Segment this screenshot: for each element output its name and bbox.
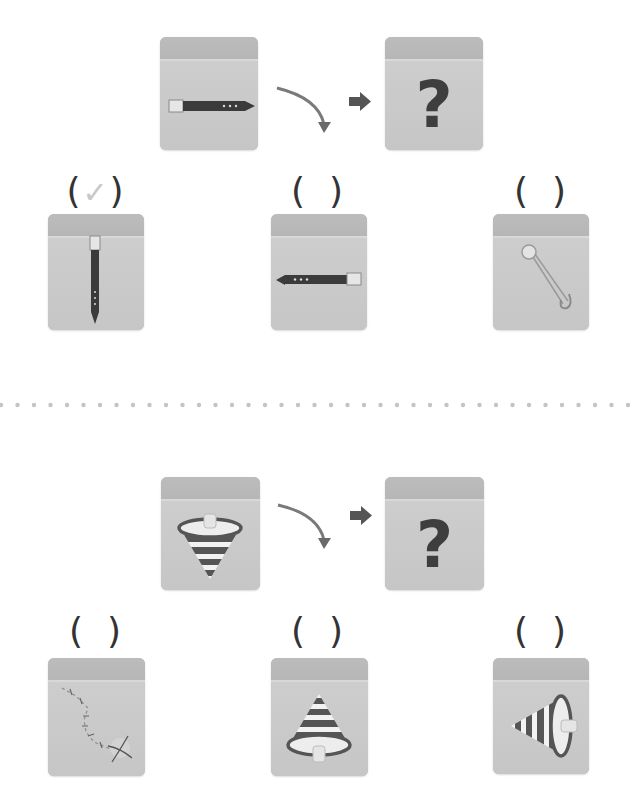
option-box-belt-vertical[interactable] xyxy=(48,214,144,330)
box-top-face xyxy=(385,477,484,501)
question-mark: ? xyxy=(385,499,484,590)
option-box-safety-pin[interactable] xyxy=(493,214,589,330)
belt-vertical-icon xyxy=(48,214,144,330)
belt-horizontal-icon xyxy=(160,37,258,150)
answer-bracket[interactable]: () xyxy=(46,610,146,651)
answer-bracket[interactable]: () xyxy=(491,610,591,651)
option-box-spinning-top-up[interactable] xyxy=(271,658,368,776)
box-top-face xyxy=(385,37,483,61)
answer-bracket[interactable]: () xyxy=(268,610,368,651)
option-box-belt-flipped[interactable] xyxy=(271,214,367,330)
treasure-map-icon xyxy=(48,658,145,776)
question-mark: ? xyxy=(385,59,483,150)
spinning-top-left-icon xyxy=(493,658,589,774)
target-box-question: ? xyxy=(385,37,483,150)
right-arrow-icon xyxy=(350,506,372,525)
belt-horizontal-flipped-icon xyxy=(271,214,367,330)
option-box-spinning-top-left[interactable] xyxy=(493,658,589,774)
curved-rotate-arrow-icon xyxy=(277,88,331,133)
spinning-top-down-icon xyxy=(161,477,260,590)
source-box-spinning-top xyxy=(161,477,260,590)
source-box-belt xyxy=(160,37,258,150)
answer-bracket[interactable]: (✓) xyxy=(46,170,146,211)
right-arrow-icon xyxy=(349,92,371,111)
check-mark-icon: ✓ xyxy=(82,175,109,210)
target-box-question: ? xyxy=(385,477,484,590)
safety-pin-icon xyxy=(493,214,589,330)
dotted-divider xyxy=(0,400,638,410)
answer-bracket[interactable]: () xyxy=(268,170,368,211)
curved-rotate-arrow-icon xyxy=(278,505,331,549)
spinning-top-up-icon xyxy=(271,658,368,776)
option-box-treasure-map[interactable] xyxy=(48,658,145,776)
answer-bracket[interactable]: () xyxy=(491,170,591,211)
